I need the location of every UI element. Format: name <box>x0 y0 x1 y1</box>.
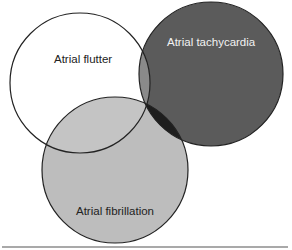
label-atrial-fibrillation: Atrial fibrillation <box>76 205 154 217</box>
label-atrial-flutter: Atrial flutter <box>54 53 112 65</box>
venn-diagram: Atrial flutter Atrial tachycardia Atrial… <box>0 0 292 250</box>
label-atrial-tachycardia: Atrial tachycardia <box>167 36 256 48</box>
